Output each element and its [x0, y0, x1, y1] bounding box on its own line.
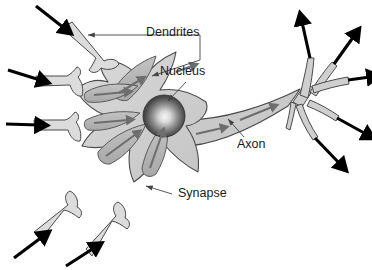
neuron-diagram: Dendrites Nucleus Axon Synapse	[0, 0, 372, 270]
label-dendrites: Dendrites	[146, 25, 200, 39]
input-arrow-3	[6, 124, 38, 125]
label-axon: Axon	[237, 137, 266, 151]
label-synapse: Synapse	[178, 186, 227, 200]
neuron-diagram-canvas: Dendrites Nucleus Axon Synapse	[0, 0, 372, 270]
nucleus-sphere	[143, 95, 185, 137]
label-nucleus: Nucleus	[160, 64, 205, 78]
